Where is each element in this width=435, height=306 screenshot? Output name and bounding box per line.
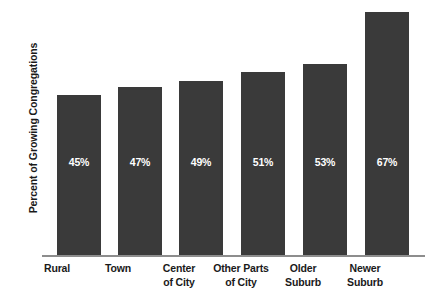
- bar-column-other-parts-of-city: 51%: [241, 0, 285, 256]
- bar-column-center-of-city: 49%: [179, 0, 223, 256]
- bar-value-town: 47%: [118, 156, 162, 168]
- plot-area: 45% 47% 49% 51% 53% 67%: [42, 0, 425, 256]
- bar-value-newer-suburb: 67%: [365, 156, 409, 168]
- bar-newer-suburb[interactable]: [365, 12, 409, 256]
- bar-town[interactable]: [118, 87, 162, 256]
- x-tick-label-newer-suburb-line1: Newer: [350, 262, 381, 274]
- y-axis-title: Percent of Growing Congregations: [22, 0, 44, 256]
- bar-value-older-suburb: 53%: [303, 156, 347, 168]
- bar-column-rural: 45%: [57, 0, 101, 256]
- x-tick-label-town-line1: Town: [105, 262, 131, 274]
- bar-rural[interactable]: [57, 95, 101, 256]
- bar-value-center-of-city: 49%: [179, 156, 223, 168]
- bar-center-of-city[interactable]: [179, 81, 223, 256]
- x-axis-line: [42, 255, 425, 257]
- x-tick-label-newer-suburb: Newer Suburb: [323, 261, 407, 289]
- x-tick-label-rural-line1: Rural: [44, 262, 70, 274]
- x-tick-label-center-of-city-line1: Center: [163, 262, 195, 274]
- bar-column-town: 47%: [118, 0, 162, 256]
- bar-value-other-parts-of-city: 51%: [241, 156, 285, 168]
- bar-chart: Percent of Growing Congregations 45% 47%…: [0, 0, 435, 306]
- bar-column-older-suburb: 53%: [303, 0, 347, 256]
- x-tick-label-older-suburb-line1: Older: [290, 262, 317, 274]
- x-tick-label-newer-suburb-line2: Suburb: [323, 275, 407, 289]
- bar-value-rural: 45%: [57, 156, 101, 168]
- bar-column-newer-suburb: 67%: [365, 0, 409, 256]
